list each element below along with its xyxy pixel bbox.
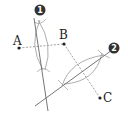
bisector-2-tick-right <box>98 50 110 58</box>
bisector-1-line <box>34 18 48 111</box>
bisector-2-arc-lower <box>64 53 102 84</box>
step-badge-2: 2 <box>109 43 120 54</box>
step-badge-1-label: 1 <box>37 6 43 15</box>
perpendicular-bisector-diagram: A B C 1 2 <box>0 0 128 121</box>
segment-ab <box>19 44 64 48</box>
step-badge-1: 1 <box>35 5 46 16</box>
label-c: C <box>103 91 112 105</box>
label-b: B <box>59 28 68 42</box>
segment-bc <box>64 44 100 98</box>
step-badge-2-label: 2 <box>111 44 117 53</box>
bisector-1-tick-bottom <box>37 69 50 73</box>
label-a: A <box>12 34 22 48</box>
point-c <box>98 96 101 99</box>
bisector-1-arc-left <box>35 20 43 70</box>
point-b <box>62 42 65 45</box>
